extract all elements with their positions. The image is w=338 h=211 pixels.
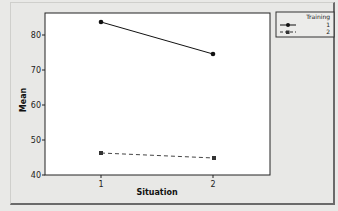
data-point	[99, 151, 103, 155]
legend-marker-square-icon	[286, 31, 290, 35]
y-tick-label: 80	[31, 31, 41, 40]
y-tick-label: 50	[31, 136, 41, 145]
x-tick-label: 2	[210, 180, 215, 189]
data-point	[212, 156, 216, 160]
chart-svg: 40 50 60 70 80 Mean 1 2 Situation Traini…	[0, 0, 338, 211]
y-tick-label: 40	[31, 171, 41, 180]
x-tick-label: 1	[98, 180, 103, 189]
data-point	[211, 52, 216, 57]
legend-label: 1	[326, 21, 330, 28]
x-axis-title: Situation	[136, 188, 177, 197]
y-tick-label: 60	[31, 101, 41, 110]
y-tick-label: 70	[31, 66, 41, 75]
legend: Training 1 2	[276, 12, 334, 37]
y-axis: 40 50 60 70 80 Mean	[19, 31, 45, 180]
legend-label: 2	[326, 28, 330, 35]
data-point	[99, 20, 104, 25]
legend-marker-circle-icon	[286, 23, 290, 27]
x-axis: 1 2 Situation	[98, 175, 215, 197]
y-axis-title: Mean	[19, 87, 28, 112]
plot-area	[45, 13, 270, 175]
legend-title: Training	[305, 13, 330, 21]
